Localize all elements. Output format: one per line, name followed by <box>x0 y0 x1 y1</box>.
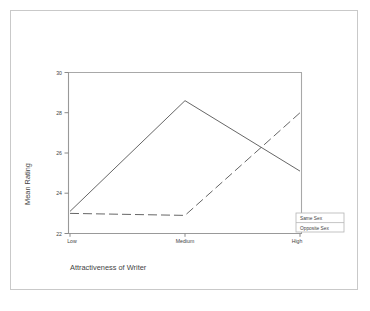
line-chart: 22 24 26 28 30 Low Medium High Mean Rati… <box>0 0 370 311</box>
x-tick-label-medium: Medium <box>176 238 194 244</box>
legend-label-same-sex: Same Sex <box>300 216 323 221</box>
y-tick-label-30: 30 <box>56 70 62 76</box>
y-tick-label-26: 26 <box>56 150 62 156</box>
legend-label-opposite-sex: Opposite Sex <box>300 226 329 231</box>
x-tick-label-low: Low <box>67 238 77 244</box>
y-tick-label-22: 22 <box>56 231 62 237</box>
figure-canvas: 22 24 26 28 30 Low Medium High Mean Rati… <box>0 0 370 311</box>
y-tick-label-28: 28 <box>56 110 62 116</box>
legend: Same Sex Opposite Sex <box>296 213 344 232</box>
y-tick-label-24: 24 <box>56 190 62 196</box>
x-axis-title: Attractiveness of Writer <box>70 263 147 272</box>
series-line-opposite-sex <box>70 113 300 216</box>
y-axis-title: Mean Rating <box>23 163 32 205</box>
series-line-same-sex <box>70 101 300 212</box>
x-tick-label-high: High <box>292 238 303 244</box>
